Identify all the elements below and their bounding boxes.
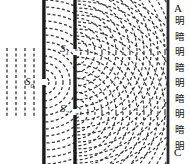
slit-label-s1: S1 (60, 43, 69, 57)
fringe-label-6: 明 (175, 109, 185, 119)
fringe-label-3: 暗 (175, 63, 185, 73)
fringe-label-7: 暗 (175, 125, 185, 135)
barrier-second (73, 0, 76, 164)
observation-screen (167, 0, 170, 164)
barrier-first (42, 0, 45, 164)
slit-label-s0: S0 (25, 76, 34, 90)
fringe-label-1: 暗 (175, 32, 185, 42)
slit-label-s2: S2 (60, 103, 69, 117)
fringe-label-5: 暗 (175, 94, 185, 104)
fringe-label-column: 明暗明暗明暗明暗明 (172, 16, 188, 150)
fringe-label-2: 明 (175, 47, 185, 57)
fringe-label-4: 明 (175, 78, 185, 88)
screen-label-a: A (174, 3, 182, 14)
fringe-label-8: 明 (175, 141, 185, 151)
fringe-label-0: 明 (175, 16, 185, 26)
double-slit-figure: S0 S1 S2 A C 明暗明暗明暗明暗明 (0, 0, 190, 164)
